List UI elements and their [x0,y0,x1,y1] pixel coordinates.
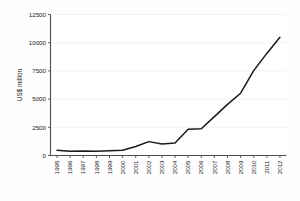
y-tick-label: 10000 [29,39,47,46]
x-tick-label: 2006 [197,160,204,174]
line-chart-svg: 02500500075001000012500 1995199619971998… [0,0,300,201]
x-tick-label: 2010 [250,160,257,174]
x-tick-label: 2001 [132,160,139,174]
chart-figure: 02500500075001000012500 1995199619971998… [0,0,300,201]
y-tick-label: 7500 [32,67,46,74]
y-tick-label: 12500 [29,11,47,18]
x-tick-label: 1996 [66,160,73,174]
x-tick-label: 2012 [276,160,283,174]
x-tick-label: 2002 [145,160,152,174]
chart-canvas: 02500500075001000012500 1995199619971998… [0,0,300,201]
x-tick-label: 1995 [53,160,60,174]
x-tick-label: 2007 [211,160,218,174]
x-tick-label: 1998 [93,160,100,174]
x-tick-label: 2009 [237,160,244,174]
y-axis-title: US$ million [16,68,23,101]
x-tick-label: 2003 [158,160,165,174]
y-tick-label: 2500 [32,124,46,131]
x-tick-label: 2008 [224,160,231,174]
x-tick-label: 2000 [119,160,126,174]
y-tick-label: 0 [43,152,47,159]
x-tick-label: 2005 [184,160,191,174]
plot-area-background [51,15,287,156]
x-tick-label: 1999 [106,160,113,174]
x-tick-label: 2004 [171,160,178,174]
x-tick-label: 1997 [79,160,86,174]
y-tick-label: 5000 [32,95,46,102]
x-tick-label: 2011 [263,160,270,174]
